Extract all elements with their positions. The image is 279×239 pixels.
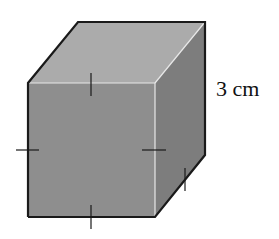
cube-diagram	[0, 0, 279, 239]
cube-front-face	[28, 83, 155, 217]
edge-length-label: 3 cm	[216, 76, 259, 102]
